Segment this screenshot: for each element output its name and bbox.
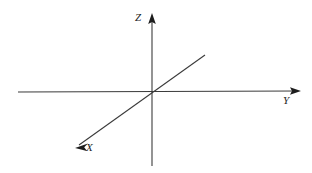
- coordinate-axes-figure: Z Y X: [0, 0, 312, 173]
- x-axis-group: [75, 55, 205, 151]
- y-axis-label: Y: [283, 95, 289, 106]
- z-axis-label: Z: [135, 12, 141, 23]
- x-axis-line: [79, 55, 205, 145]
- z-axis-group: [148, 13, 156, 166]
- y-axis-line: [18, 91, 297, 92]
- axes-drawing: [0, 0, 312, 173]
- y-axis-group: [18, 87, 301, 95]
- x-axis-label: X: [86, 142, 93, 153]
